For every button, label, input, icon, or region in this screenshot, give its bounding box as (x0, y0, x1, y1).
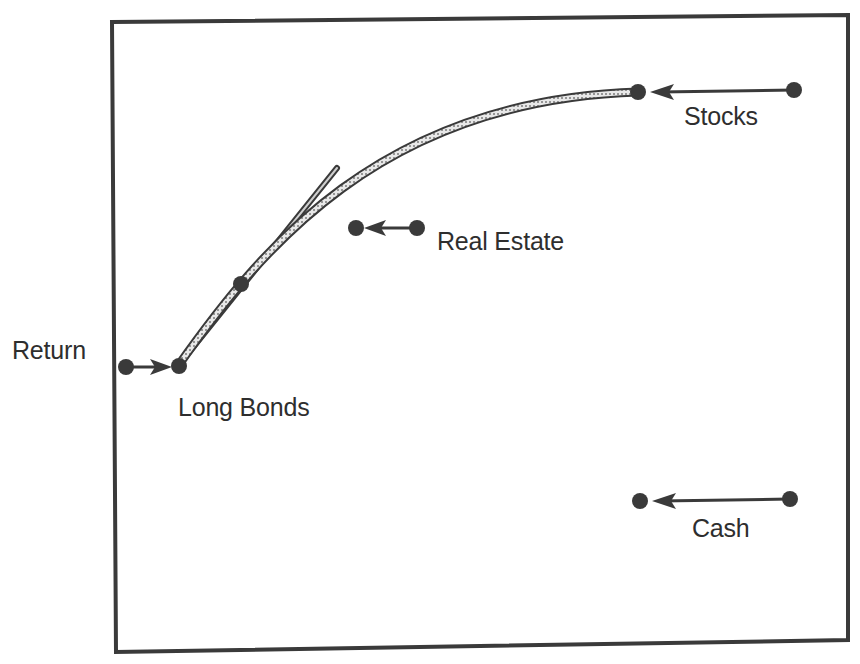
real-estate-end-dot (348, 220, 364, 236)
long-bonds-label: Long Bonds (178, 393, 309, 422)
real-estate-arrow (348, 220, 425, 236)
long-bonds-dot (171, 358, 187, 374)
efficient-frontier-diagram (0, 0, 860, 664)
stocks-end-dot (630, 84, 646, 100)
return-arrow (118, 359, 172, 375)
cash-arrow (632, 491, 798, 509)
real-estate-start-dot (409, 220, 425, 236)
cash-label: Cash (692, 514, 750, 543)
cash-end-dot (632, 493, 648, 509)
stocks-start-dot (786, 82, 802, 98)
return-start-dot (118, 359, 134, 375)
stocks-label: Stocks (684, 102, 758, 131)
stocks-arrow (630, 82, 802, 100)
return-label: Return (12, 336, 86, 365)
cash-start-dot (782, 491, 798, 507)
tangent-point-dot (233, 276, 249, 292)
real-estate-label: Real Estate (437, 227, 564, 256)
